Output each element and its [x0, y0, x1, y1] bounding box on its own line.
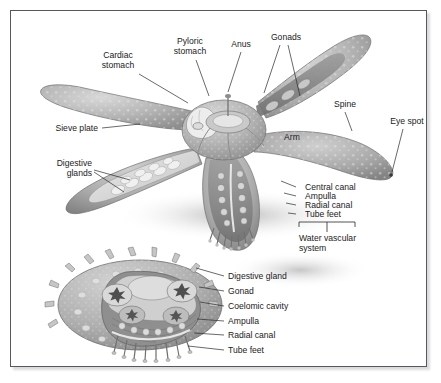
whole-animal-cutaway: Cardiacstomach Pyloricstomach Anus Gonad… [41, 32, 425, 253]
label-gonads: Gonads [271, 32, 301, 42]
tube-feet-cs-tips [112, 351, 192, 363]
label-tube-feet: Tube feet [305, 209, 342, 219]
label-coelomic-cavity: Coelomic cavity [228, 301, 289, 311]
figure-root: Cardiacstomach Pyloricstomach Anus Gonad… [0, 0, 441, 383]
arm-lower-cutaway [203, 152, 260, 251]
label-eye-spot: Eye spot [390, 116, 424, 126]
label-tube-feet-cs: Tube feet [228, 345, 265, 355]
label-cardiac-stomach: Cardiacstomach [102, 50, 135, 70]
label-radial-canal-cs: Radial canal [228, 330, 275, 340]
central-disc [182, 94, 266, 160]
sieve-plate-organ [193, 123, 203, 130]
label-ampulla-cs: Ampulla [228, 316, 259, 326]
label-water-vascular-system: Water vascularsystem [299, 233, 356, 253]
arm-right [254, 131, 393, 180]
label-digestive-gland: Digestive gland [228, 271, 287, 281]
eye-spot-marker [389, 173, 393, 177]
label-spine: Spine [334, 99, 356, 109]
anus-opening [225, 94, 231, 98]
diagram-stage: Cardiacstomach Pyloricstomach Anus Gonad… [0, 0, 441, 383]
label-gonad: Gonad [228, 286, 254, 296]
label-digestive-glands: Digestiveglands [57, 158, 93, 178]
label-anus: Anus [231, 39, 251, 49]
label-sieve-plate: Sieve plate [55, 123, 98, 133]
label-pyloric-stomach: Pyloricstomach [174, 36, 207, 56]
label-arm: Arm [284, 132, 300, 142]
